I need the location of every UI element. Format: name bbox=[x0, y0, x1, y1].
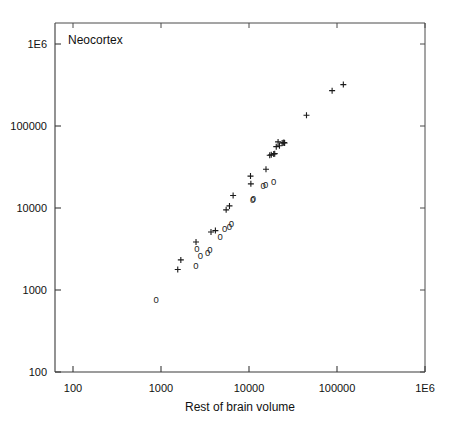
series-zero-group: 000000000000000 bbox=[153, 176, 276, 305]
x-tick-label: 100000 bbox=[319, 382, 356, 394]
x-axis-title: Rest of brain volume bbox=[185, 400, 295, 414]
chart-figure: 1001000100001000001E6 100100010000100000… bbox=[0, 0, 450, 439]
data-point-cross bbox=[208, 229, 214, 235]
data-point-cross bbox=[329, 88, 335, 94]
data-point-zero: 0 bbox=[193, 260, 198, 271]
data-point-zero: 0 bbox=[207, 244, 212, 255]
y-axis-ticks bbox=[55, 44, 425, 372]
data-point-cross bbox=[340, 82, 346, 88]
y-axis-tick-labels: 1001000100001000001E6 bbox=[10, 38, 47, 378]
data-point-cross bbox=[303, 112, 309, 118]
y-tick-label: 100000 bbox=[10, 120, 47, 132]
scatter-plot: 1001000100001000001E6 100100010000100000… bbox=[0, 0, 450, 439]
y-tick-label: 100 bbox=[29, 366, 47, 378]
data-point-zero: 0 bbox=[251, 193, 256, 204]
data-point-cross bbox=[178, 257, 184, 263]
data-point-cross bbox=[276, 143, 282, 149]
data-point-zero: 0 bbox=[153, 294, 158, 305]
data-point-cross bbox=[223, 207, 229, 213]
data-point-zero: 0 bbox=[271, 176, 276, 187]
series-cross-group bbox=[175, 82, 347, 273]
data-point-cross bbox=[230, 193, 236, 199]
data-point-cross bbox=[248, 181, 254, 187]
y-tick-label: 1000 bbox=[23, 284, 47, 296]
x-tick-label: 100 bbox=[64, 382, 82, 394]
y-tick-label: 10000 bbox=[16, 202, 47, 214]
data-point-zero: 0 bbox=[198, 250, 203, 261]
x-tick-label: 1000 bbox=[149, 382, 173, 394]
plot-series-label: Neocortex bbox=[68, 33, 123, 47]
data-point-cross bbox=[263, 166, 269, 172]
x-tick-label: 10000 bbox=[234, 382, 265, 394]
x-axis-tick-labels: 1001000100001000001E6 bbox=[64, 382, 435, 394]
data-point-zero: 0 bbox=[229, 218, 234, 229]
plot-frame bbox=[55, 23, 425, 372]
data-point-cross bbox=[175, 266, 181, 272]
data-point-cross bbox=[247, 173, 253, 179]
x-tick-label: 1E6 bbox=[415, 382, 435, 394]
y-tick-label: 1E6 bbox=[27, 38, 47, 50]
data-markers-layer: 000000000000000 bbox=[153, 82, 346, 305]
data-point-zero: 0 bbox=[263, 179, 268, 190]
data-point-cross bbox=[226, 203, 232, 209]
